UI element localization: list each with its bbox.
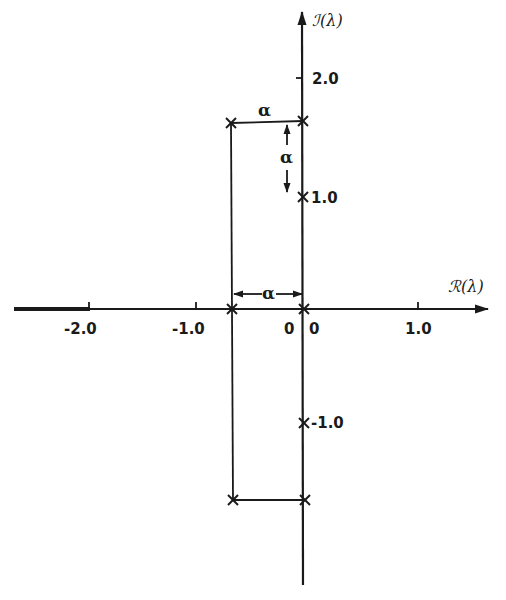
tick-label-origin-left: 0: [284, 320, 294, 338]
alpha-label-vertical: α: [280, 147, 293, 167]
real-axis-ticks: [89, 302, 418, 309]
alpha-label-real: α: [262, 283, 275, 303]
tick-label-im-pos2: 2.0: [312, 70, 339, 88]
dimension-alpha-vertical: α: [280, 125, 293, 192]
tick-label-re-neg2: -2.0: [64, 320, 97, 338]
tick-label-origin-right: 0: [309, 320, 319, 338]
tick-label-re-neg1: -1.0: [172, 320, 205, 338]
dimension-alpha-horizontal-bottom: α: [234, 283, 302, 303]
construction-lines: [231, 121, 305, 500]
tick-label-im-neg1: -1.0: [311, 414, 344, 432]
cross-marker: [299, 418, 309, 428]
alpha-label-top: α: [258, 100, 271, 120]
tick-label-im-pos1: 1.0: [311, 189, 338, 207]
eigenvalue-markers: [226, 116, 310, 505]
tick-label-re-pos1: 1.0: [405, 320, 432, 338]
imag-axis-label: ℐ(λ): [312, 11, 343, 30]
real-axis-label: ℛ(λ): [448, 277, 484, 296]
eigenvalue-diagram: -2.0 -1.0 0 0 1.0 2.0 1.0 -1.0 ℐ(λ) ℛ(λ)…: [0, 0, 506, 600]
